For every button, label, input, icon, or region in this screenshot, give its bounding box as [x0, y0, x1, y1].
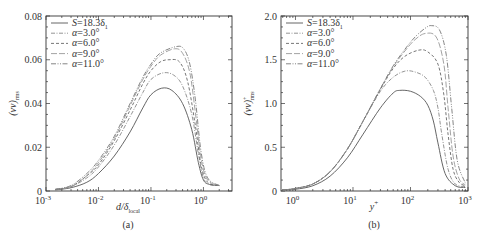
x-axis-label: y+ — [369, 199, 378, 212]
y-tick-label: 0.04 — [25, 98, 43, 109]
chart-panel-a: 10-310-210-110000.020.040.060.08d/δlocal… — [7, 11, 232, 232]
y-axis-label: (vv)+rms — [242, 91, 255, 116]
series-line-1 — [55, 73, 219, 190]
series-line-2 — [283, 50, 466, 190]
series-line-1 — [283, 71, 466, 190]
legend-entry: α=11.0° — [72, 58, 104, 69]
x-axis: 10-310-210-1100 — [35, 16, 228, 206]
x-axis-label: d/δlocal — [116, 201, 140, 214]
legend: S=18.3δ1α=3.0°α=6.0°α=9.0°α=11.0° — [51, 17, 108, 69]
y-tick-label: 1.5 — [265, 54, 278, 65]
panel-label: (b) — [368, 219, 380, 231]
x-tick-label: 10-1 — [140, 194, 156, 206]
series-line-2 — [55, 59, 219, 189]
x-tick-label: 10-2 — [88, 194, 104, 206]
figure: 10-310-210-110000.020.040.060.08d/δlocal… — [0, 0, 486, 241]
y-tick-label: 0 — [272, 186, 277, 197]
y-tick-label: 1.0 — [265, 98, 278, 109]
series-line-0 — [55, 88, 219, 190]
y-tick-label: 0 — [37, 186, 42, 197]
panel-label: (a) — [122, 219, 133, 231]
legend-entry: α=11.0° — [307, 58, 339, 69]
legend: S=18.3δ1α=3.0°α=6.0°α=9.0°α=11.0° — [286, 17, 343, 69]
y-tick-label: 0.02 — [25, 142, 43, 153]
y-tick-label: 2.0 — [265, 11, 278, 22]
x-tick-label: 101 — [343, 194, 357, 206]
y-tick-label: 0.06 — [25, 54, 43, 65]
y-tick-label: 0.08 — [25, 11, 43, 22]
x-tick-label: 100 — [194, 194, 208, 206]
series-line-0 — [283, 90, 466, 190]
y-axis-label: (vv)rms — [7, 91, 20, 116]
x-tick-label: 102 — [401, 194, 415, 206]
chart-panel-b: 10010110210300.51.01.52.0y+(vv)+rms(b)S=… — [242, 11, 472, 232]
x-tick-label: 100 — [286, 194, 300, 206]
y-axis: 00.020.040.060.08 — [25, 11, 233, 197]
x-tick-label: 103 — [458, 194, 472, 206]
y-tick-label: 0.5 — [265, 142, 278, 153]
